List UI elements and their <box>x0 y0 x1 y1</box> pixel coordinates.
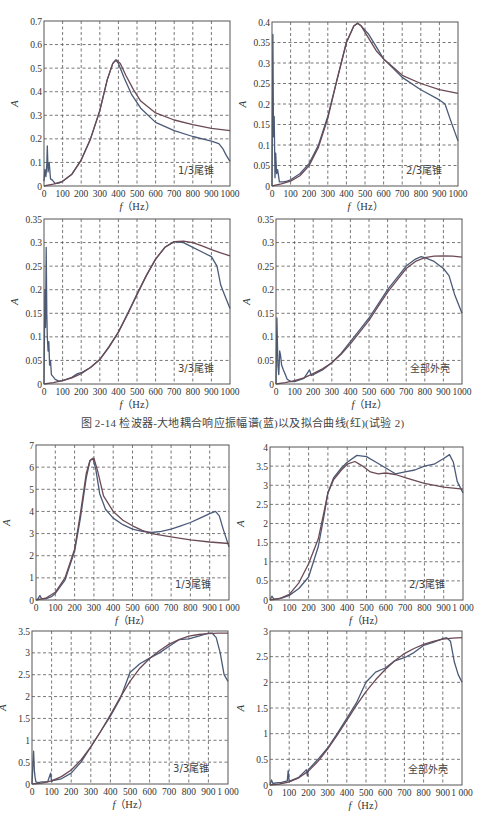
plot-frame <box>270 631 462 785</box>
x-tick-label: 400 <box>340 603 355 613</box>
chart-svg: 01002003004005006007008009001 00000.511.… <box>0 0 485 817</box>
x-tick-label: 400 <box>103 787 118 797</box>
y-tick-label: 2.5 <box>256 652 268 662</box>
y-tick-label: 0.35 <box>257 215 274 225</box>
measured-spectrum-line <box>44 242 230 384</box>
y-tick-label: 0.3 <box>30 238 42 248</box>
y-tick-label: 0 <box>263 781 268 791</box>
x-tick-label: 0 <box>42 387 47 397</box>
fitted-curve-line <box>270 462 463 601</box>
plot-frame <box>44 219 230 384</box>
fitted-curve-line <box>36 458 229 600</box>
fitted-curve-line <box>276 256 462 384</box>
x-tick-label: 500 <box>125 603 140 613</box>
y-axis-label: A <box>240 298 252 306</box>
y-tick-label: 0.5 <box>18 758 30 768</box>
x-tick-label: 100 <box>48 603 63 613</box>
y-tick-label: 3.5 <box>256 462 268 472</box>
x-tick-label: 300 <box>321 189 336 199</box>
x-tick-label: 100 <box>44 787 59 797</box>
x-tick-label: 900 <box>203 603 218 613</box>
y-axis-label: A <box>236 100 248 108</box>
y-tick-label: 3.5 <box>18 627 30 637</box>
y-tick-label: 5 <box>29 485 34 495</box>
y-tick-label: 0.35 <box>253 38 270 48</box>
x-tick-label: 900 <box>436 788 451 798</box>
y-tick-label: 0.15 <box>25 309 42 319</box>
x-tick-label: 200 <box>74 387 89 397</box>
figure-caption: 图 2-14 检波器-大地耦合响应振幅谱(蓝)以及拟合曲线(红)(试验 2) <box>0 414 485 430</box>
grid-lines <box>270 447 463 600</box>
y-tick-label: 0.3 <box>262 238 274 248</box>
y-tick-label: 7 <box>29 441 34 451</box>
y-tick-label: 0 <box>37 380 42 390</box>
panel-annotation: 全部外壳 <box>408 763 448 775</box>
y-tick-label: 2 <box>25 692 30 702</box>
x-tick-label: 800 <box>414 189 429 199</box>
panel-annotation: 3/3尾锥 <box>173 763 209 774</box>
x-tick-label: 200 <box>306 387 321 397</box>
y-tick-label: 2.5 <box>18 670 30 680</box>
measured-spectrum-line <box>272 23 458 186</box>
y-tick-label: 0.4 <box>30 87 42 97</box>
grid-lines <box>32 631 228 784</box>
x-tick-label: 200 <box>302 189 317 199</box>
x-tick-label: 900 <box>436 387 451 397</box>
x-tick-label: 1000 <box>453 387 472 397</box>
panel-annotation: 3/3尾锥 <box>178 363 214 374</box>
y-tick-label: 0.2 <box>30 134 42 144</box>
chart-svg: 0100200300400500600700800900100000.050.1… <box>0 0 485 817</box>
y-tick-label: 4 <box>263 443 268 453</box>
x-tick-label: 0 <box>270 189 275 199</box>
y-tick-label: 0.05 <box>25 356 42 366</box>
chart-svg: 01002003004005006007008009001 0000123456… <box>0 0 485 817</box>
y-tick-label: 0.2 <box>262 285 274 295</box>
y-tick-label: 6 <box>29 463 34 473</box>
y-tick-label: 1 <box>263 557 268 567</box>
fitted-curve-line <box>270 638 462 785</box>
x-tick-label: 400 <box>340 788 355 798</box>
y-tick-label: 0.1 <box>258 141 270 151</box>
y-tick-label: 1 <box>29 573 34 583</box>
chart-svg: 01002003004005006007008009001 00000.511.… <box>0 0 485 817</box>
y-tick-label: 0 <box>25 780 30 790</box>
y-tick-label: 0.25 <box>25 262 42 272</box>
y-tick-label: 0.25 <box>253 79 270 89</box>
x-tick-label: 300 <box>93 387 108 397</box>
fitted-curve-line <box>32 633 228 784</box>
y-tick-label: 0.05 <box>253 161 270 171</box>
y-tick-label: 0.1 <box>262 332 274 342</box>
y-tick-label: 2 <box>263 519 268 529</box>
y-tick-label: 3 <box>263 627 268 637</box>
x-tick-label: 600 <box>380 387 395 397</box>
y-tick-label: 0.4 <box>258 18 270 28</box>
x-tick-label: 900 <box>204 189 219 199</box>
chart-svg: 0100200300400500600700800900100000.050.1… <box>0 0 485 817</box>
x-tick-label: 500 <box>130 387 145 397</box>
y-tick-label: 0.3 <box>30 111 42 121</box>
x-tick-label: 800 <box>186 387 201 397</box>
y-tick-label: 1 <box>25 736 30 746</box>
chart-svg: 0100200300400500600700800900100000.10.20… <box>0 0 485 817</box>
x-tick-label: 100 <box>282 603 297 613</box>
plot-frame <box>36 445 229 600</box>
x-tick-label: 700 <box>398 603 413 613</box>
grid-lines <box>36 445 229 600</box>
x-tick-label: 1000 <box>221 387 240 397</box>
x-tick-label: 700 <box>397 788 412 798</box>
plot-frame <box>272 22 458 186</box>
y-tick-label: 2 <box>29 551 34 561</box>
x-tick-label: 0 <box>268 603 273 613</box>
chart-svg: 0100200300400500600700800900100000.050.1… <box>0 0 485 817</box>
panel-annotation: 2/3尾锥 <box>409 579 445 590</box>
x-tick-label: 300 <box>84 787 99 797</box>
x-tick-label: 700 <box>399 387 414 397</box>
x-tick-label: 1 000 <box>217 787 239 797</box>
y-tick-label: 0.6 <box>30 40 42 50</box>
y-tick-label: 0 <box>263 596 268 606</box>
plot-frame <box>44 21 230 186</box>
x-tick-label: 1 000 <box>218 603 240 613</box>
x-tick-label: 100 <box>55 189 70 199</box>
x-tick-label: 400 <box>106 603 121 613</box>
y-tick-label: 0.1 <box>30 332 42 342</box>
